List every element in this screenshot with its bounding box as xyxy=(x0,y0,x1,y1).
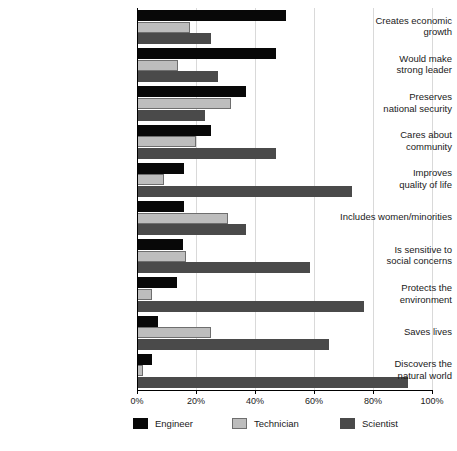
bar-engineer xyxy=(137,163,184,174)
legend-item-scientist[interactable]: Scientist xyxy=(340,418,398,429)
legend-item-technician[interactable]: Technician xyxy=(232,418,299,429)
bar-scientist xyxy=(137,186,352,197)
bar-technician xyxy=(137,22,190,33)
category-label-line: growth xyxy=(329,26,452,38)
category-label-line: Discovers the xyxy=(329,358,452,370)
bar-engineer xyxy=(137,316,158,327)
bar-engineer xyxy=(137,277,177,288)
x-tick-label: 20% xyxy=(176,396,216,407)
bar-engineer xyxy=(137,86,246,97)
category-label-line: Creates economic xyxy=(329,15,452,27)
scientist-swatch xyxy=(340,418,355,429)
category-label-line: community xyxy=(329,141,452,153)
y-axis-line xyxy=(137,8,138,390)
category-label-line: environment xyxy=(329,294,452,306)
bar-technician xyxy=(137,289,152,300)
bar-technician xyxy=(137,251,186,262)
category-label-line: Protects the xyxy=(329,282,452,294)
category-label: Would makestrong leader xyxy=(329,53,457,76)
category-label-line: Cares about xyxy=(329,129,452,141)
category-label-line: Is sensitive to xyxy=(329,244,452,256)
category-label: Improvesquality of life xyxy=(329,167,457,190)
category-label-line: Would make xyxy=(329,53,452,65)
category-label: Creates economicgrowth xyxy=(329,15,457,38)
x-tick-mark xyxy=(137,390,138,394)
bar-scientist xyxy=(137,71,218,82)
gridline-40 xyxy=(255,8,256,390)
bar-technician xyxy=(137,60,178,71)
bar-technician xyxy=(137,174,164,185)
bar-engineer xyxy=(137,201,184,212)
bar-scientist xyxy=(137,148,276,159)
legend-item-engineer[interactable]: Engineer xyxy=(133,418,193,429)
bar-technician xyxy=(137,327,211,338)
bar-scientist xyxy=(137,33,211,44)
bar-technician xyxy=(137,136,196,147)
category-label-line: national security xyxy=(329,103,452,115)
bar-chart: 0%20%40%60%80%100% Creates economicgrowt… xyxy=(0,0,457,451)
legend-label: Engineer xyxy=(155,418,193,429)
bar-engineer xyxy=(137,354,152,365)
gridline-60 xyxy=(314,8,315,390)
category-label: Saves lives xyxy=(329,326,457,338)
engineer-swatch xyxy=(133,418,148,429)
x-tick-mark xyxy=(373,390,374,394)
bar-scientist xyxy=(137,262,310,273)
category-label-line: Saves lives xyxy=(329,326,452,338)
bar-scientist xyxy=(137,110,205,121)
bar-engineer xyxy=(137,125,211,136)
x-tick-label: 0% xyxy=(117,396,157,407)
x-tick-label: 40% xyxy=(235,396,275,407)
x-tick-label: 80% xyxy=(353,396,393,407)
bar-technician xyxy=(137,98,231,109)
bar-engineer xyxy=(137,10,286,21)
category-label-line: Preserves xyxy=(329,91,452,103)
category-label-line: quality of life xyxy=(329,179,452,191)
category-label-line: Includes women/minorities xyxy=(329,211,452,223)
legend-label: Scientist xyxy=(362,418,398,429)
x-tick-label: 60% xyxy=(294,396,334,407)
bar-scientist xyxy=(137,339,329,350)
category-label-line: Improves xyxy=(329,167,452,179)
category-label: Includes women/minorities xyxy=(329,211,457,223)
x-tick-mark xyxy=(432,390,433,394)
x-tick-mark xyxy=(314,390,315,394)
category-label: Preservesnational security xyxy=(329,91,457,114)
technician-swatch xyxy=(232,418,247,429)
x-tick-label: 100% xyxy=(412,396,452,407)
category-label-line: social concerns xyxy=(329,255,452,267)
chart-legend: EngineerTechnicianScientist xyxy=(0,418,457,438)
bar-engineer xyxy=(137,48,276,59)
bar-engineer xyxy=(137,239,183,250)
legend-label: Technician xyxy=(254,418,299,429)
category-label: Discovers thenatural world xyxy=(329,358,457,381)
category-label: Is sensitive tosocial concerns xyxy=(329,244,457,267)
category-label-line: natural world xyxy=(329,370,452,382)
category-label: Protects theenvironment xyxy=(329,282,457,305)
bar-scientist xyxy=(137,224,246,235)
bar-technician xyxy=(137,213,228,224)
category-label-line: strong leader xyxy=(329,64,452,76)
category-label: Cares aboutcommunity xyxy=(329,129,457,152)
x-axis-line xyxy=(137,390,433,391)
x-tick-mark xyxy=(255,390,256,394)
x-tick-mark xyxy=(196,390,197,394)
